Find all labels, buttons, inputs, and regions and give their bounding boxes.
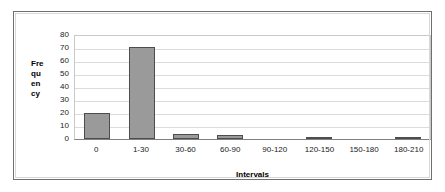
bar-slot (341, 36, 385, 139)
y-axis-tick-label: 50 (47, 70, 69, 78)
x-axis-tick-label: 1-30 (119, 145, 164, 154)
y-axis-tick-label: 60 (47, 57, 69, 65)
bar-slot (297, 36, 341, 139)
bar[interactable] (129, 47, 155, 139)
bar-slot (119, 36, 163, 139)
y-axis-tick-label: 80 (47, 31, 69, 39)
bar[interactable] (217, 135, 243, 139)
x-axis-title: Intervals (74, 170, 431, 179)
y-axis-title: Fre qu en cy (31, 59, 53, 99)
plot-area (74, 35, 431, 140)
x-axis-tick-labels: 0 1-30 30-60 60-90 90-120 120-150 150-18… (74, 145, 431, 154)
figure: Fre qu en cy 80 70 60 50 40 30 20 10 0 (0, 0, 445, 192)
x-axis-tick-label: 120-150 (297, 145, 342, 154)
x-axis-tick-label: 0 (74, 145, 119, 154)
bar-series (75, 36, 430, 139)
y-axis-tick-label: 0 (47, 135, 69, 143)
bar[interactable] (84, 113, 110, 139)
y-axis-tick-label: 70 (47, 44, 69, 52)
y-axis-tick-label: 20 (47, 109, 69, 117)
chart-outer-frame: Fre qu en cy 80 70 60 50 40 30 20 10 0 (13, 11, 432, 180)
y-axis-tick-label: 30 (47, 96, 69, 104)
bar-slot (253, 36, 297, 139)
bar[interactable] (173, 134, 199, 139)
x-axis-tick-label: 180-210 (386, 145, 431, 154)
bar-slot (75, 36, 119, 139)
y-axis-tick-label: 40 (47, 83, 69, 91)
bar-slot (208, 36, 252, 139)
x-axis-tick-label: 90-120 (253, 145, 298, 154)
x-axis-tick-label: 30-60 (163, 145, 208, 154)
bar[interactable] (395, 137, 421, 140)
x-axis-tick-label: 150-180 (342, 145, 387, 154)
bar-slot (386, 36, 430, 139)
bar-slot (164, 36, 208, 139)
y-axis-tick-label: 10 (47, 122, 69, 130)
x-axis-tick-label: 60-90 (208, 145, 253, 154)
bar[interactable] (306, 137, 332, 140)
